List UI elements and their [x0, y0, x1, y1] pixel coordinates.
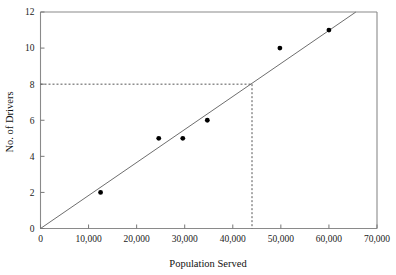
y-tick-label: 0	[30, 224, 35, 234]
y-tick-label: 4	[30, 152, 35, 162]
y-tick-label: 12	[25, 7, 35, 17]
data-point-marker	[277, 46, 282, 51]
x-axis-title: Population Served	[169, 258, 247, 269]
x-tick-label: 30,000	[172, 234, 198, 244]
scatter-chart: 010,00020,00030,00040,00050,00060,00070,…	[0, 0, 396, 275]
y-axis-title: No. of Drivers	[4, 92, 15, 153]
y-tick-label: 2	[30, 188, 35, 198]
x-tick-label: 50,000	[268, 234, 294, 244]
y-tick-label: 8	[30, 80, 35, 90]
data-point-marker	[98, 190, 103, 195]
data-point-marker	[180, 136, 185, 141]
chart-canvas: 010,00020,00030,00040,00050,00060,00070,…	[0, 0, 396, 275]
data-point-marker	[156, 136, 161, 141]
data-point-marker	[327, 28, 332, 33]
data-point-marker	[205, 118, 210, 123]
x-tick-label: 0	[38, 234, 43, 244]
x-tick-label: 60,000	[316, 234, 342, 244]
x-tick-label: 70,000	[364, 234, 390, 244]
x-tick-label: 20,000	[124, 234, 150, 244]
y-tick-label: 6	[30, 116, 35, 126]
y-tick-label: 10	[25, 43, 35, 53]
x-tick-label: 10,000	[76, 234, 102, 244]
x-tick-label: 40,000	[220, 234, 246, 244]
